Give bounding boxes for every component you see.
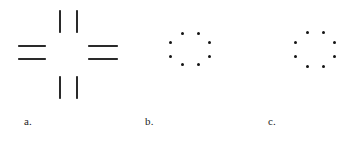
ring-c-dot-left-upper xyxy=(294,41,297,44)
panel-label-c: c. xyxy=(268,116,276,127)
ring-c-dot-right-lower xyxy=(333,55,336,58)
ring-c-dot-bottom-right xyxy=(322,65,325,68)
figure-canvas: a.b.c. xyxy=(0,0,362,145)
ring-c-dot-bottom-left xyxy=(306,65,309,68)
ring-c-dot-top-left xyxy=(306,31,309,34)
figure-panel-c: c. xyxy=(0,0,362,145)
ring-c-dot-top-right xyxy=(322,31,325,34)
ring-c-dot-right-upper xyxy=(333,41,336,44)
ring-c-dot-left-lower xyxy=(294,55,297,58)
